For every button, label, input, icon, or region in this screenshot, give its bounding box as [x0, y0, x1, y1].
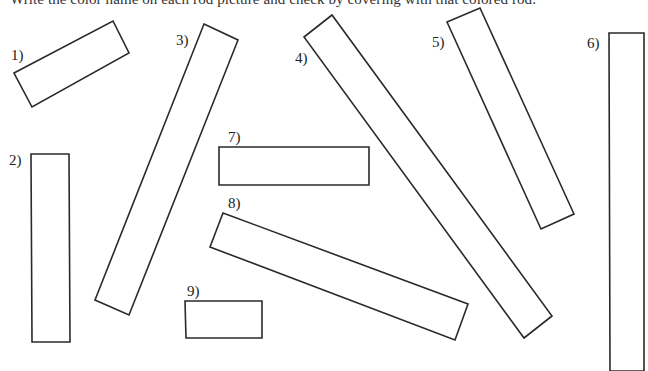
rod-9 [185, 301, 262, 338]
rod-label-2: 2) [9, 153, 22, 168]
rod-label-7: 7) [228, 130, 241, 145]
rod-drawing-canvas [0, 0, 648, 371]
rod-label-8: 8) [228, 196, 241, 211]
rod-label-9: 9) [187, 284, 200, 299]
rod-label-4: 4) [295, 51, 308, 66]
rod-6 [609, 33, 644, 371]
rod-label-3: 3) [176, 33, 189, 48]
rod-7 [219, 147, 369, 185]
rod-2 [31, 154, 70, 342]
rod-label-5: 5) [432, 35, 445, 50]
rod-label-6: 6) [587, 36, 600, 51]
rod-3 [95, 24, 238, 315]
rod-5 [447, 8, 574, 229]
rod-1 [14, 21, 129, 107]
rod-label-1: 1) [11, 48, 24, 63]
